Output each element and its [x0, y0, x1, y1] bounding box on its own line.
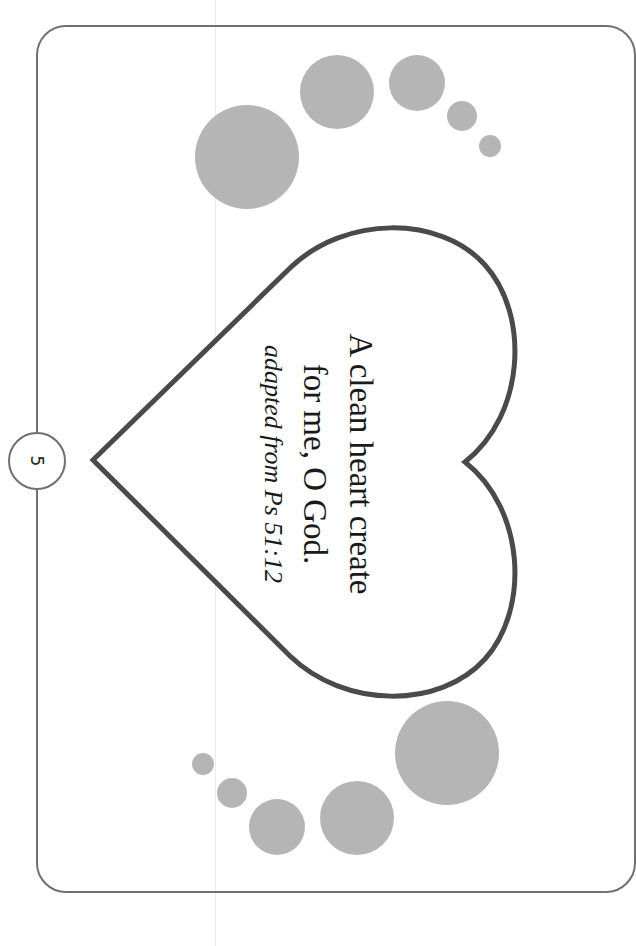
dot-large	[195, 105, 299, 209]
verse-block: A clean heart create for me, O God. adap…	[258, 296, 384, 632]
dot-small	[389, 55, 445, 111]
verse-line-2: for me, O God.	[292, 296, 338, 632]
dot-small	[249, 799, 305, 855]
dot-smallest	[479, 135, 501, 157]
top-dot-cluster	[195, 55, 501, 209]
dot-medium	[300, 55, 374, 129]
dot-medium	[320, 781, 394, 855]
dot-large	[395, 701, 499, 805]
page-number: 5	[27, 456, 47, 467]
verse-rotated: A clean heart create for me, O God. adap…	[258, 296, 384, 632]
bottom-dot-cluster	[192, 701, 499, 855]
dot-tiny	[217, 778, 247, 808]
page-number-badge: 5	[8, 432, 66, 490]
verse-line-1: A clean heart create	[338, 296, 384, 632]
dot-tiny	[447, 101, 477, 131]
dot-smallest	[192, 753, 214, 775]
verse-citation: adapted from Ps 51:12	[254, 296, 292, 632]
